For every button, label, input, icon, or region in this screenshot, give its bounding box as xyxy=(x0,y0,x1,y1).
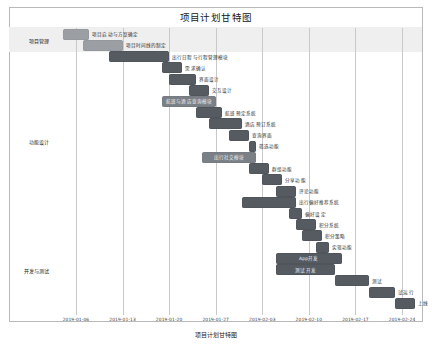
gridline xyxy=(76,28,77,315)
gantt-bar-label: 测试 xyxy=(372,278,382,284)
gantt-chart-page: 项目计划甘特图 2019-01-062019-01-132019-01-2020… xyxy=(0,0,432,350)
gridline xyxy=(216,28,217,315)
y-axis-category-label: 项目管理 xyxy=(29,36,49,43)
gantt-bar[interactable] xyxy=(242,197,295,208)
x-axis-tick-label: 2019-01-13 xyxy=(109,317,136,322)
y-axis-category-label: 开发与测试 xyxy=(24,266,49,273)
gantt-bar-label: 出行社交模块 xyxy=(202,152,255,163)
gantt-bar[interactable] xyxy=(335,275,368,286)
gantt-bar-label: 航班与酒店查询模块 xyxy=(162,96,215,107)
gantt-bar[interactable] xyxy=(209,118,242,129)
gantt-bar[interactable]: App开发 xyxy=(276,253,343,264)
gantt-bar[interactable]: 航班与酒店查询模块 xyxy=(162,96,215,107)
gantt-bar[interactable] xyxy=(63,29,90,40)
x-axis-tick-label: 2019-02-10 xyxy=(296,317,323,322)
gantt-bar[interactable] xyxy=(229,130,249,141)
gantt-bar[interactable] xyxy=(249,163,269,174)
gantt-bar-label: 筛选功能 xyxy=(259,143,279,149)
gantt-bar-label: 实现功能 xyxy=(332,244,352,250)
y-axis-category-label: 功能设计 xyxy=(29,137,49,144)
gantt-bar-label: 评论功能 xyxy=(299,188,319,194)
x-axis-tick-label: 2019-02-17 xyxy=(342,317,369,322)
gantt-bar-label: 查询界面 xyxy=(252,132,272,138)
gantt-bar-label: 项目启动与方案确定 xyxy=(92,31,138,37)
gantt-bar-label: App开发 xyxy=(276,253,343,264)
gantt-bar[interactable] xyxy=(302,230,322,241)
gantt-bar[interactable]: 出行社交模块 xyxy=(202,152,255,163)
gantt-bar[interactable] xyxy=(296,219,316,230)
gantt-bar-label: 航班预定系统 xyxy=(225,110,256,116)
gantt-bar-label: 需求确认 xyxy=(185,65,205,71)
gantt-bar[interactable] xyxy=(276,186,296,197)
chart-title: 项目计划甘特图 xyxy=(0,10,432,24)
x-axis-tick-label: 2019-01-20 xyxy=(156,317,183,322)
gantt-bar-label: 酒店预订系统 xyxy=(245,121,276,127)
gridline xyxy=(355,28,356,315)
gridline xyxy=(123,28,124,315)
gantt-bar[interactable]: 测试开发 xyxy=(276,264,336,275)
gantt-bar-label: 上线 xyxy=(418,300,428,306)
gantt-bar-label: 积分系统 xyxy=(319,222,339,228)
gantt-bar[interactable] xyxy=(262,174,282,185)
gridline xyxy=(402,28,403,315)
x-axis-tick-label: 2019-01-27 xyxy=(202,317,229,322)
x-axis-tick-label: 2019-01-06 xyxy=(63,317,90,322)
gantt-bar[interactable] xyxy=(316,242,329,253)
gantt-bar[interactable] xyxy=(83,40,123,51)
gantt-bar-label: 项目时间线的制定 xyxy=(126,42,167,48)
gantt-bar-label: 偏好设定 xyxy=(305,211,325,217)
gantt-bar-label: 积分策略 xyxy=(325,233,345,239)
gantt-bar-label: 试运行 xyxy=(398,289,413,295)
gantt-bar-label: 出行偏好推荐系统 xyxy=(299,199,340,205)
gantt-bar[interactable] xyxy=(169,74,196,85)
gantt-bar-label: 群组功能 xyxy=(272,166,292,172)
gantt-bar[interactable] xyxy=(395,298,415,309)
gantt-bar-label: 界面设计 xyxy=(199,76,219,82)
gantt-bar-label: 分享功能 xyxy=(285,177,305,183)
gantt-bar[interactable] xyxy=(196,107,223,118)
gantt-bar[interactable] xyxy=(249,141,256,152)
gantt-bar[interactable] xyxy=(109,51,169,62)
x-axis-tick-label: 2019-02-03 xyxy=(249,317,276,322)
x-axis-tick-label: 2019-02-24 xyxy=(389,317,416,322)
gantt-bar[interactable] xyxy=(189,85,209,96)
gantt-bar[interactable] xyxy=(289,208,302,219)
gantt-bar-label: 测试开发 xyxy=(276,264,336,275)
gantt-bar-label: 出行日程与行程管理模块 xyxy=(172,54,228,60)
gantt-bar-label: 交互设计 xyxy=(212,87,232,93)
gantt-bar[interactable] xyxy=(162,62,182,73)
axis-caption: 项目计划甘特图 xyxy=(0,330,432,339)
plot-area: 2019-01-062019-01-132019-01-202019-01-27… xyxy=(56,28,422,315)
gantt-bar[interactable] xyxy=(369,287,396,298)
